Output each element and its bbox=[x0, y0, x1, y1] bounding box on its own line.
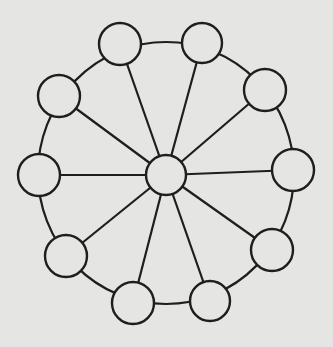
peripheral-node-6 bbox=[190, 281, 230, 321]
hub-node bbox=[146, 155, 186, 195]
peripheral-node-2 bbox=[182, 23, 222, 63]
peripheral-node-9 bbox=[18, 154, 60, 196]
peripheral-node-7 bbox=[112, 282, 154, 324]
peripheral-node-3 bbox=[244, 69, 286, 111]
peripheral-node-1 bbox=[99, 23, 141, 65]
peripheral-node-4 bbox=[272, 149, 314, 191]
peripheral-node-5 bbox=[251, 229, 293, 271]
peripheral-node-10 bbox=[38, 75, 80, 117]
wheel-network-diagram bbox=[0, 0, 333, 347]
peripheral-node-8 bbox=[45, 235, 87, 277]
